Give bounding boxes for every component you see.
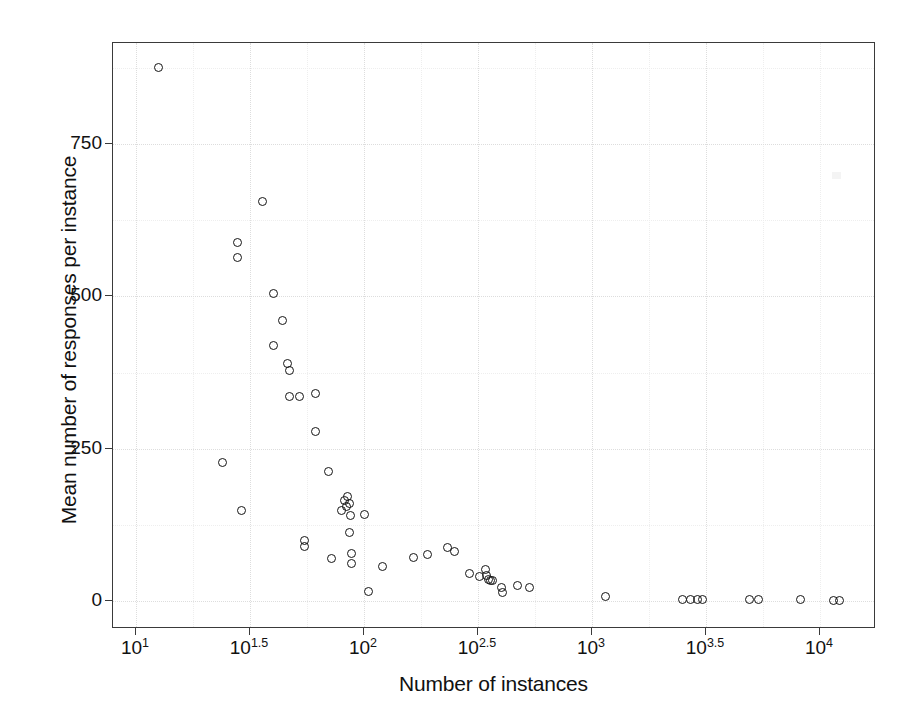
data-point xyxy=(450,547,459,556)
gridline-horizontal xyxy=(113,144,874,145)
data-point xyxy=(233,238,242,247)
x-tick-mark xyxy=(477,628,478,635)
gridline-vertical-minor xyxy=(193,43,194,627)
x-tick-label: 101 xyxy=(90,637,180,659)
data-point xyxy=(324,467,333,476)
gridline-vertical xyxy=(136,43,137,627)
data-point xyxy=(601,592,610,601)
x-tick-exponent: 1 xyxy=(142,636,149,650)
data-point xyxy=(285,366,294,375)
y-tick-mark xyxy=(105,600,112,601)
x-tick-label: 102 xyxy=(318,637,408,659)
y-tick-mark xyxy=(105,448,112,449)
data-point xyxy=(364,587,373,596)
x-tick-base: 10 xyxy=(121,637,142,658)
data-point xyxy=(311,427,320,436)
data-point xyxy=(525,583,534,592)
data-point xyxy=(796,595,805,604)
data-point xyxy=(347,549,356,558)
x-tick-base: 10 xyxy=(686,637,707,658)
gridline-vertical-minor xyxy=(763,43,764,627)
x-tick-mark xyxy=(249,628,250,635)
y-tick-label: 0 xyxy=(42,589,102,611)
gridline-horizontal-minor xyxy=(113,68,874,69)
data-point xyxy=(285,392,294,401)
gridline-vertical xyxy=(706,43,707,627)
y-axis-title: Mean number of responses per instance xyxy=(46,30,92,650)
gridline-vertical-minor xyxy=(820,43,821,627)
data-point xyxy=(346,511,355,520)
x-tick-label: 103 xyxy=(546,637,636,659)
gridline-horizontal xyxy=(113,296,874,297)
data-point xyxy=(835,596,844,605)
gridline-horizontal-minor xyxy=(113,220,874,221)
x-tick-label: 103.5 xyxy=(660,637,750,659)
gridline-vertical-minor xyxy=(421,43,422,627)
data-point xyxy=(342,502,351,511)
x-tick-label: 102.5 xyxy=(432,637,522,659)
data-point xyxy=(295,392,304,401)
data-point xyxy=(347,559,356,568)
gridline-horizontal xyxy=(113,449,874,450)
y-tick-label: 500 xyxy=(42,284,102,306)
data-point xyxy=(465,569,474,578)
x-tick-mark xyxy=(819,628,820,635)
data-point xyxy=(218,458,227,467)
y-tick-mark xyxy=(105,143,112,144)
x-tick-exponent: 2.5 xyxy=(479,636,496,650)
gridline-vertical xyxy=(592,43,593,627)
data-point xyxy=(269,341,278,350)
data-point xyxy=(300,542,309,551)
x-tick-exponent: 3 xyxy=(598,636,605,650)
y-tick-mark xyxy=(105,295,112,296)
gridline-vertical xyxy=(478,43,479,627)
gridline-vertical-minor xyxy=(535,43,536,627)
data-point xyxy=(237,506,246,515)
data-point xyxy=(488,576,497,585)
x-tick-mark xyxy=(135,628,136,635)
data-point xyxy=(745,595,754,604)
data-point xyxy=(513,581,522,590)
x-tick-exponent: 1.5 xyxy=(251,636,268,650)
data-point xyxy=(269,289,278,298)
gridline-vertical-minor xyxy=(649,43,650,627)
x-tick-mark xyxy=(363,628,364,635)
plot-area xyxy=(112,42,875,628)
gridline-horizontal-minor xyxy=(113,525,874,526)
data-point xyxy=(498,588,507,597)
x-tick-exponent: 2 xyxy=(370,636,377,650)
y-tick-label: 250 xyxy=(42,437,102,459)
gridline-vertical xyxy=(364,43,365,627)
data-point xyxy=(327,554,336,563)
data-point xyxy=(154,63,163,72)
x-tick-base: 10 xyxy=(230,637,251,658)
data-point xyxy=(345,528,354,537)
data-point xyxy=(423,550,432,559)
x-tick-base: 10 xyxy=(805,637,826,658)
x-tick-exponent: 3.5 xyxy=(707,636,724,650)
gridline-horizontal-minor xyxy=(113,373,874,374)
data-point xyxy=(311,389,320,398)
x-tick-label: 101.5 xyxy=(204,637,294,659)
x-axis-title: Number of instances xyxy=(112,672,875,696)
x-tick-base: 10 xyxy=(458,637,479,658)
x-tick-mark xyxy=(705,628,706,635)
gridline-vertical xyxy=(250,43,251,627)
x-tick-label: 104 xyxy=(774,637,864,659)
x-tick-base: 10 xyxy=(349,637,370,658)
x-tick-mark xyxy=(591,628,592,635)
x-tick-base: 10 xyxy=(577,637,598,658)
data-point xyxy=(258,197,267,206)
y-tick-label: 750 xyxy=(42,132,102,154)
scan-artifact xyxy=(832,172,841,179)
scatter-plot-figure: Mean number of responses per instance 02… xyxy=(0,0,917,717)
data-point xyxy=(409,553,418,562)
x-tick-exponent: 4 xyxy=(826,636,833,650)
data-point xyxy=(233,253,242,262)
data-point xyxy=(378,562,387,571)
data-point xyxy=(360,510,369,519)
data-point xyxy=(278,316,287,325)
